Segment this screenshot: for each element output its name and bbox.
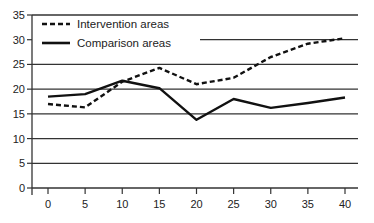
y-tick-label: 20 — [13, 83, 25, 95]
x-tick-label: 5 — [82, 198, 88, 210]
x-tick-label: 40 — [339, 198, 351, 210]
line-chart: 05101520253035 0510152025303540 Interven… — [0, 0, 374, 223]
legend-label-intervention: Intervention areas — [77, 18, 169, 30]
x-tick-label: 30 — [265, 198, 277, 210]
x-tick-label: 35 — [302, 198, 314, 210]
y-tick-label: 30 — [13, 34, 25, 46]
x-tick-label: 25 — [228, 198, 240, 210]
x-axis-ticks: 0510152025303540 — [45, 188, 351, 210]
y-tick-label: 5 — [19, 157, 25, 169]
legend-label-comparison: Comparison areas — [77, 37, 171, 49]
x-tick-label: 20 — [190, 198, 202, 210]
x-tick-label: 10 — [116, 198, 128, 210]
y-axis-ticks: 05101520253035 — [13, 9, 32, 194]
y-tick-label: 15 — [13, 108, 25, 120]
y-tick-label: 10 — [13, 133, 25, 145]
y-tick-label: 0 — [19, 182, 25, 194]
legend: Intervention areas Comparison areas — [42, 18, 171, 49]
y-tick-label: 25 — [13, 58, 25, 70]
x-tick-label: 15 — [153, 198, 165, 210]
data-series — [48, 38, 345, 120]
x-tick-label: 0 — [45, 198, 51, 210]
y-tick-label: 35 — [13, 9, 25, 21]
